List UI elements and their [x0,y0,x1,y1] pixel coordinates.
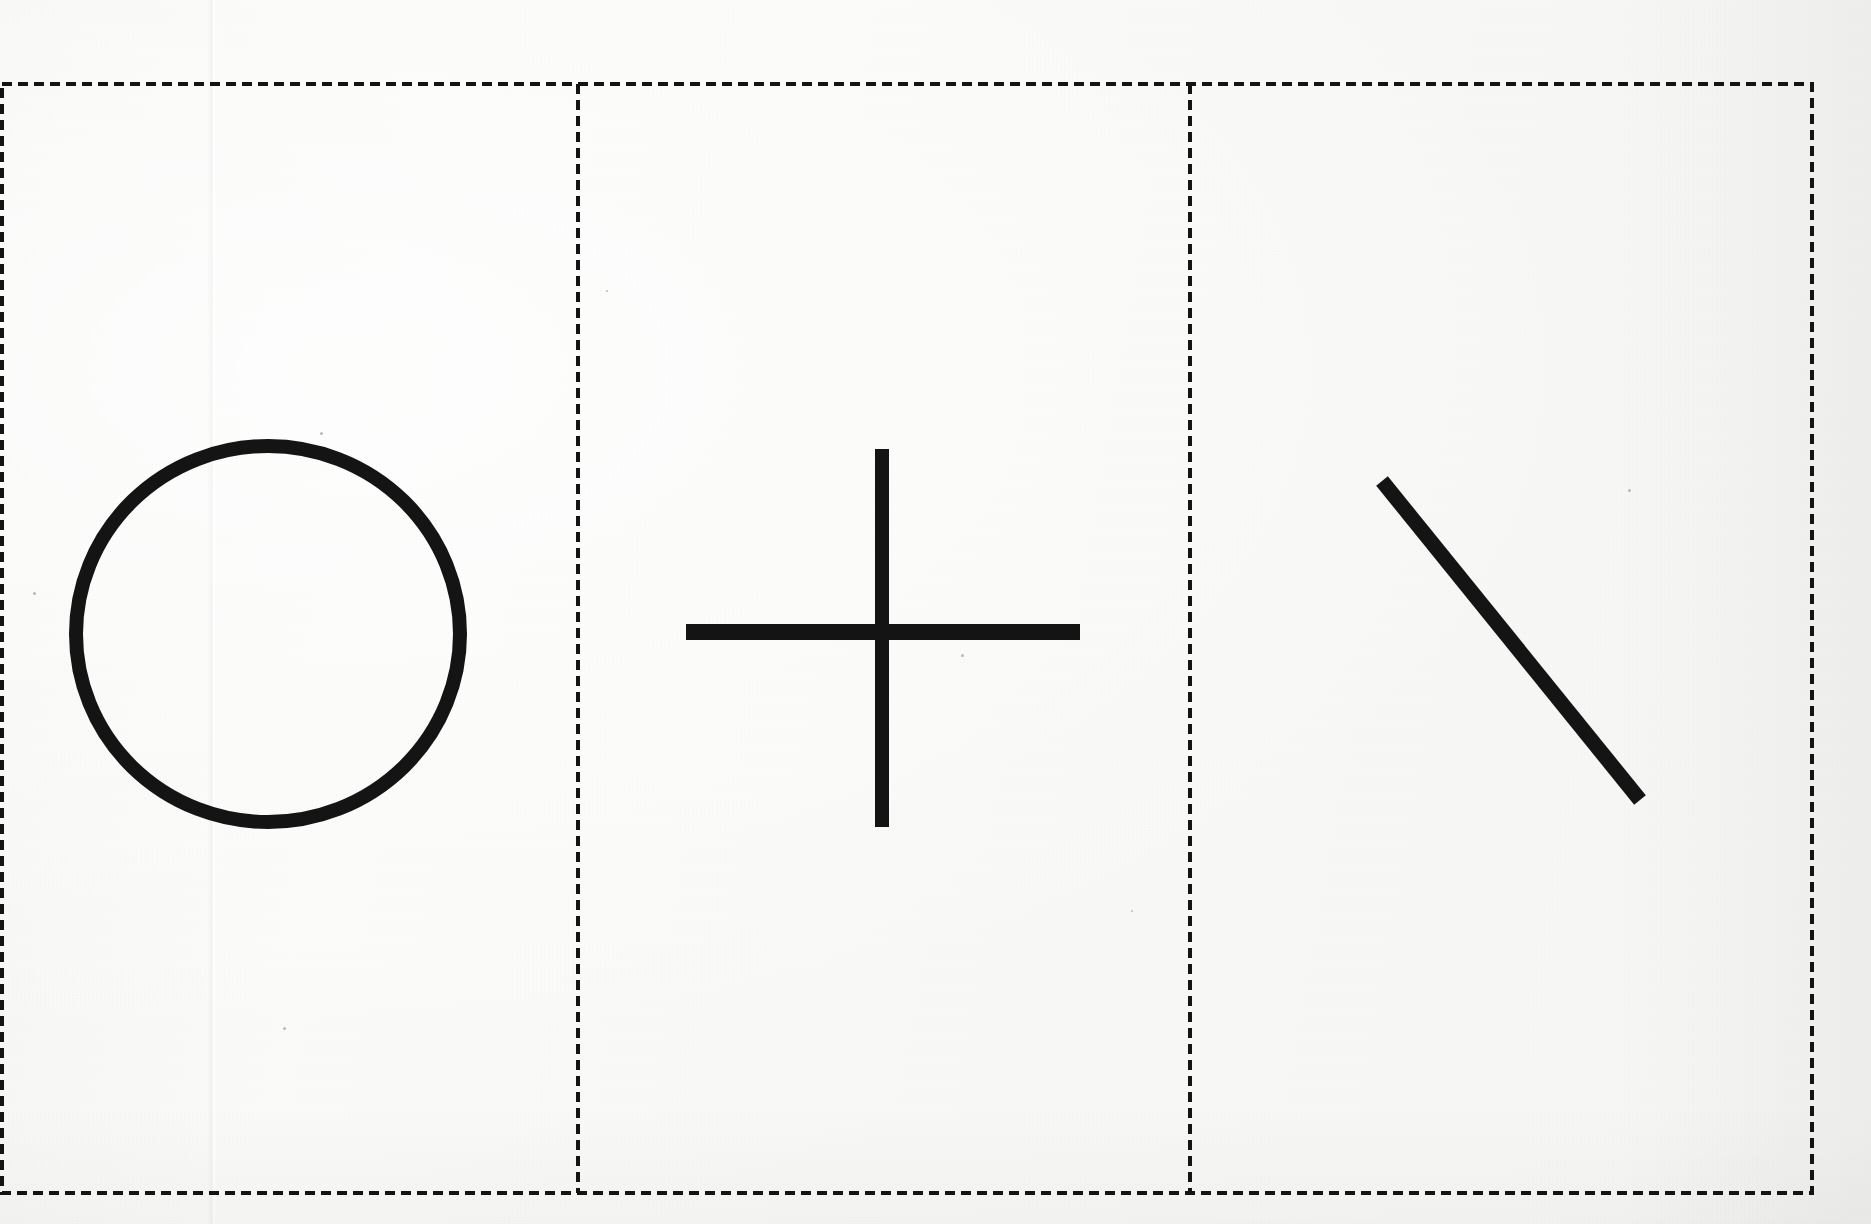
circle-shape [76,446,460,822]
cross-shape [686,449,1080,827]
scanned-page [0,0,1871,1224]
artwork-canvas [0,0,1871,1224]
diagonal-line-shape [1382,481,1640,800]
